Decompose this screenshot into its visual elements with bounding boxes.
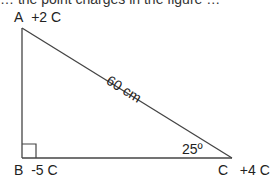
angle-label: 25º — [182, 141, 203, 157]
right-angle-marker — [22, 144, 36, 158]
vertex-c-name: C — [218, 162, 228, 178]
vertex-c-label: C +4 C — [218, 162, 270, 178]
vertex-b-charge: -5 C — [31, 162, 57, 178]
vertex-a-charge: +2 C — [31, 9, 61, 25]
vertex-c-charge: +4 C — [240, 162, 270, 178]
vertex-a-name: A — [14, 9, 23, 25]
vertex-b-name: B — [14, 162, 23, 178]
vertex-a-label: A +2 C — [14, 9, 61, 25]
vertex-b-label: B -5 C — [14, 162, 58, 178]
